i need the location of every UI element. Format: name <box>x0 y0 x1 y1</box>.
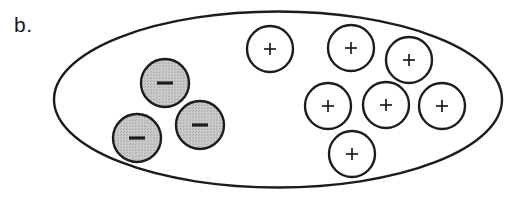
positive-ion-7 <box>329 131 375 177</box>
negative-ion-1 <box>141 59 189 107</box>
negative-ion-3 <box>176 101 224 149</box>
figure-panel-b: b. <box>0 0 523 199</box>
figure-canvas: b. <box>0 0 523 199</box>
positive-ion-4 <box>305 83 351 129</box>
positive-ion-1 <box>247 26 293 72</box>
positive-ion-2 <box>328 25 374 71</box>
positive-ion-6 <box>419 83 465 129</box>
negative-ion-2 <box>113 114 161 162</box>
positive-ion-5 <box>363 82 409 128</box>
positive-ion-3 <box>386 37 432 83</box>
panel-label-b: b. <box>14 13 33 36</box>
